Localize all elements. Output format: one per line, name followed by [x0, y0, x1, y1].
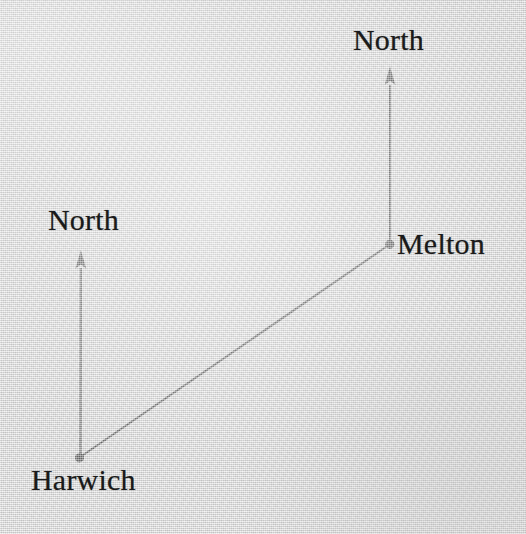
point-marker-melton — [385, 240, 394, 249]
place-label-harwich: Harwich — [31, 465, 136, 495]
point-marker-harwich — [75, 453, 84, 462]
place-label-melton: Melton — [397, 229, 485, 259]
diagram-canvas — [0, 0, 526, 534]
north-arrow-harwich-head — [75, 250, 86, 269]
north-label-harwich: North — [48, 205, 119, 235]
bearing-diagram-figure: North North Harwich Melton — [0, 0, 526, 534]
north-label-melton: North — [353, 25, 424, 55]
route-harwich-to-melton — [80, 245, 390, 458]
north-arrow-melton-head — [385, 67, 396, 86]
